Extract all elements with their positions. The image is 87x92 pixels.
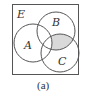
- set-a-label: A: [23, 39, 32, 52]
- figure-caption: (a): [37, 79, 50, 92]
- venn-diagram: E A B C (a): [0, 0, 87, 92]
- universe-label: E: [16, 8, 25, 21]
- set-b-label: B: [51, 16, 60, 29]
- set-c-label: C: [58, 55, 67, 68]
